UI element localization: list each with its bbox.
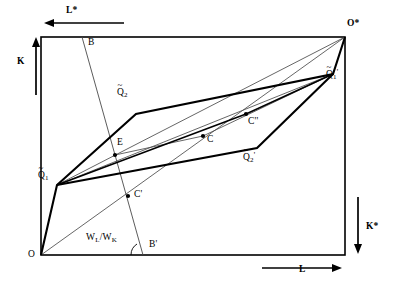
point-label-Q1-tilde: ~Q1	[38, 171, 49, 182]
line-E-C-Q1tildeprime	[115, 74, 333, 155]
diagram-svg	[0, 0, 398, 292]
line-Q1tilde-C-Q1tildeprime	[57, 74, 333, 185]
point-label-Q1-tilde-prime: ~Q1'	[326, 69, 338, 81]
point-label-E: E	[117, 138, 123, 148]
tilde-accent-icon: ~	[327, 63, 332, 72]
point-label-Q2-tilde: ~Q2	[117, 88, 128, 99]
tilde-accent-icon: ~	[39, 164, 44, 173]
axis-arrow-K	[32, 37, 40, 95]
point-label-C-double-prime: C''	[248, 117, 258, 127]
point-dot-C	[201, 134, 205, 138]
line-Q1tilde-Ostar	[57, 37, 345, 185]
axis-arrow-K-star	[354, 197, 362, 254]
point-dot-E	[113, 153, 117, 157]
point-dot-C-prime	[126, 194, 130, 198]
axis-label-L-star: L*	[66, 6, 78, 16]
line-diagonal-O-Ostar	[41, 37, 345, 255]
tilde-accent-icon: ~	[244, 146, 249, 155]
line-BBprime	[82, 37, 143, 255]
axis-arrow-L-star	[44, 19, 124, 27]
point-label-O-star: O*	[347, 19, 360, 29]
tilde-accent-icon: ~	[118, 81, 123, 90]
wage-ratio-label: WL/WK	[86, 233, 117, 244]
angle-arc-Bprime	[131, 244, 137, 255]
figure-canvas: K L* K* L O O* ~Q1 ~Q1' ~Q2 ~Q2' B B' E …	[0, 0, 398, 292]
point-label-C: C	[207, 135, 214, 145]
point-label-C-prime: C'	[134, 190, 142, 200]
axis-label-L: L	[299, 265, 306, 275]
point-label-B: B	[88, 38, 95, 48]
point-label-O: O	[28, 250, 35, 260]
wage-numerator-sub: L	[95, 236, 99, 244]
axis-label-K: K	[17, 57, 25, 67]
axis-label-K-star: K*	[366, 222, 379, 232]
point-label-Q2-tilde-prime: ~Q2'	[243, 152, 255, 164]
wage-denominator-sub: K	[112, 236, 117, 244]
wage-denominator: W	[103, 232, 112, 242]
point-label-B-prime: B'	[149, 240, 157, 250]
wage-numerator: W	[86, 232, 95, 242]
